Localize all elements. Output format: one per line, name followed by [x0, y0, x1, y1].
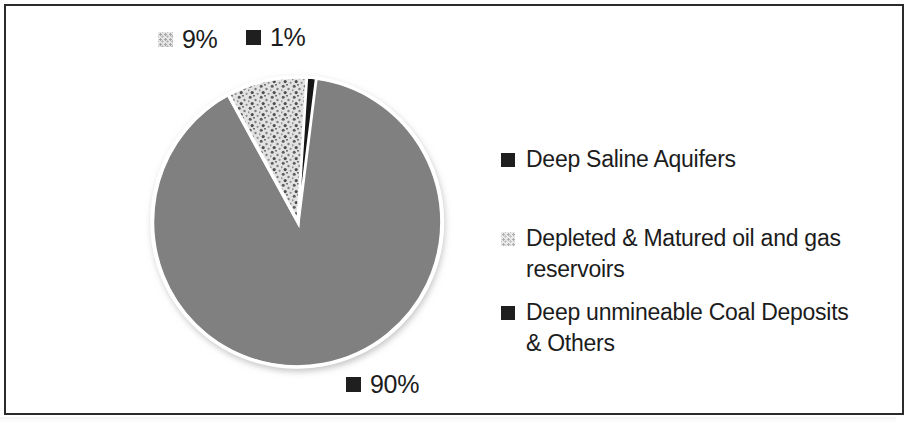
dark-square-marker-icon — [346, 377, 361, 392]
legend-item-label: Deep unmineable Coal Deposits & Others — [526, 297, 866, 359]
dark-square-marker-icon — [246, 30, 261, 45]
pie-chart-graphic — [138, 62, 458, 382]
legend-item-label: Depleted & Matured oil and gas reservoir… — [526, 223, 866, 285]
data-label-depleted-matured: 9% — [158, 25, 218, 54]
page-bottom-band — [0, 417, 896, 423]
data-label-value: 9% — [182, 25, 218, 54]
legend-item-depleted-matured-oil-gas-reservoirs[interactable]: Depleted & Matured oil and gas reservoir… — [501, 223, 891, 285]
speckle-square-marker-icon — [501, 232, 515, 246]
pie-chart-plot-area: 9% 1% 90% — [6, 6, 476, 417]
data-label-deep-unmineable-coal: 1% — [246, 23, 306, 52]
data-label-value: 1% — [270, 23, 306, 52]
chart-legend: Deep Saline Aquifers Depleted & Matured … — [501, 144, 891, 359]
legend-item-deep-saline-aquifers[interactable]: Deep Saline Aquifers — [501, 144, 891, 175]
speckle-square-marker-icon — [158, 32, 173, 47]
data-label-value: 90% — [370, 370, 419, 399]
dark-square-marker-icon — [501, 306, 515, 320]
legend-item-deep-unmineable-coal-deposits-others[interactable]: Deep unmineable Coal Deposits & Others — [501, 297, 891, 359]
chart-frame: 9% 1% 90% Deep Saline Aquifers Depleted … — [4, 4, 904, 415]
dark-square-marker-icon — [501, 153, 515, 167]
data-label-deep-saline-aquifers: 90% — [346, 370, 419, 399]
legend-item-label: Deep Saline Aquifers — [526, 144, 736, 175]
